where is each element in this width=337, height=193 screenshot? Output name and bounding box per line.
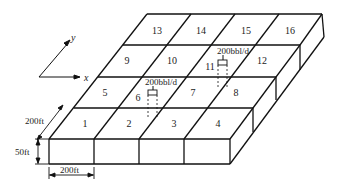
- y-axis-arrow: [39, 43, 68, 77]
- y-axis-label: y: [70, 32, 76, 43]
- well-block-11: 200bbl/d: [217, 46, 250, 88]
- depth-label: 200ft: [25, 116, 44, 126]
- block-14-label: 14: [196, 25, 206, 36]
- block-11-label: 11: [205, 61, 215, 72]
- well-11-head-icon: [218, 60, 227, 65]
- block-13-label: 13: [152, 25, 162, 36]
- block-12-label: 12: [257, 55, 267, 66]
- x-arrowhead-icon: [74, 75, 80, 79]
- block-16-label: 16: [285, 25, 295, 36]
- block-3-label: 3: [172, 118, 177, 129]
- y-arrowhead-icon: [64, 40, 70, 46]
- width-label: 200ft: [60, 165, 79, 175]
- block-6-label: 6: [136, 92, 141, 103]
- grid-lines: [49, 14, 324, 164]
- block-4-label: 4: [216, 118, 221, 129]
- block-2-label: 2: [127, 118, 132, 129]
- block-15-label: 15: [241, 25, 251, 36]
- reservoir-grid-diagram: x y 1 2 3 4 5 6 7 8 9 10 11 12 13 14 15 …: [0, 0, 337, 193]
- diagram-canvas: x y 1 2 3 4 5 6 7 8 9 10 11 12 13 14 15 …: [0, 0, 337, 193]
- block-9-label: 9: [125, 55, 130, 66]
- well-block-6: 200bbl/d: [145, 77, 178, 118]
- thickness-dimension: [35, 139, 49, 164]
- well-6-head-icon: [148, 90, 157, 95]
- well-11-rate-label: 200bbl/d: [217, 46, 250, 56]
- well-6-rate-label: 200bbl/d: [145, 77, 178, 87]
- block-7-label: 7: [191, 87, 196, 98]
- x-axis-label: x: [83, 72, 89, 83]
- block-8-label: 8: [234, 87, 239, 98]
- block-10-label: 10: [167, 55, 177, 66]
- thickness-label: 50ft: [15, 147, 30, 157]
- block-1-label: 1: [83, 118, 88, 129]
- axes-indicator: [39, 40, 80, 79]
- block-5-label: 5: [103, 87, 108, 98]
